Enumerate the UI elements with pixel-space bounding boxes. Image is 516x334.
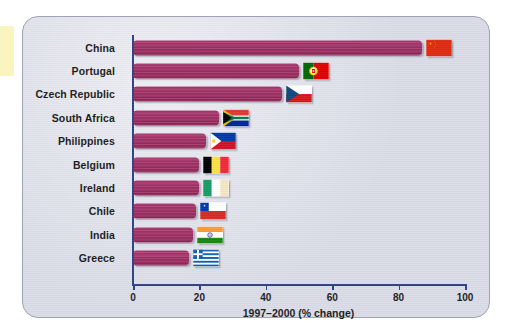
flag-greece-icon [193,250,219,267]
x-tick [465,284,467,290]
x-tick [399,284,401,290]
x-tick-label: 60 [327,292,338,303]
x-tick [266,284,268,290]
bar [133,110,219,125]
bar [133,251,189,266]
category-label: Greece [79,252,115,264]
plot-area: GreeceIndiaChileIrelandBelgiumPhilippine… [23,17,489,317]
x-tick [133,284,135,290]
flag-south-africa-icon [223,109,249,126]
bar-row: Greece [23,247,489,270]
flag-portugal-icon [303,62,329,79]
x-tick [332,284,334,290]
category-label: Portugal [72,65,115,77]
x-tick-label: 20 [194,292,205,303]
x-tick [199,284,201,290]
category-label: Belgium [73,159,115,171]
bar-row: Portugal [23,59,489,82]
flag-philippines-icon [210,133,236,150]
category-label: Czech Republic [35,88,115,100]
x-tick-label: 80 [393,292,404,303]
x-tick-label: 40 [260,292,271,303]
bar-row: Belgium [23,153,489,176]
bar [133,134,206,149]
x-tick-label: 0 [130,292,136,303]
category-label: South Africa [52,112,115,124]
bar-row: Philippines [23,130,489,153]
flag-chile-icon [200,203,226,220]
category-label: China [85,42,115,54]
bar-row: India [23,223,489,246]
page-edge-artifact [0,26,14,76]
category-label: India [90,229,115,241]
flag-india-icon [197,226,223,243]
flag-china-icon [426,39,452,56]
bar-row: Ireland [23,176,489,199]
bar [133,87,282,102]
bar-row: China [23,36,489,59]
bar [133,204,196,219]
bar-row: Chile [23,200,489,223]
x-axis-title: 1997–2000 (% change) [132,307,465,319]
x-tick-label: 100 [457,292,474,303]
bar [133,180,199,195]
flag-ireland-icon [203,179,229,196]
bar [133,157,199,172]
bar [133,227,193,242]
flag-belgium-icon [203,156,229,173]
chart-panel: GreeceIndiaChileIrelandBelgiumPhilippine… [22,16,490,318]
y-axis-line [132,35,134,285]
bar-row: South Africa [23,106,489,129]
bar-row: Czech Republic [23,83,489,106]
category-label: Chile [89,205,115,217]
bar [133,40,422,55]
category-label: Ireland [80,182,115,194]
flag-czech-republic-icon [286,86,312,103]
x-axis-line [132,284,465,286]
bar [133,63,299,78]
category-label: Philippines [58,135,115,147]
